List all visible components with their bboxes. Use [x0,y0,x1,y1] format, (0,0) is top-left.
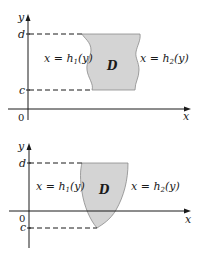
origin-label: 0 [18,112,24,123]
figure-top: y x 0 d c x = h1(y) x = h2(y) D [8,11,191,123]
figure-bottom: y x 0 d c x = h1(y) x = h2(y) D [9,140,192,248]
upper-bound-label-d: d [18,28,25,41]
x-axis-label: x [185,213,192,226]
y-axis-arrow-icon [26,14,31,21]
left-curve-label: x = h1(y) [36,180,85,194]
right-curve-label: x = h2(y) [140,52,189,66]
right-curve-label: x = h2(y) [131,180,180,194]
lower-bound-label-c: c [19,84,25,97]
region-label-d: D [98,183,110,197]
left-curve-label: x = h1(y) [44,52,93,66]
lower-bound-label-c: c [20,221,26,234]
x-axis-label: x [183,110,190,123]
region-label-d: D [106,59,118,73]
y-axis-arrow-icon [27,143,32,150]
y-axis-label: y [17,140,25,153]
y-axis-label: y [17,11,25,24]
upper-bound-label-d: d [19,157,26,170]
diagram-canvas: y x 0 d c x = h1(y) x = h2(y) D y x 0 d … [0,0,204,263]
